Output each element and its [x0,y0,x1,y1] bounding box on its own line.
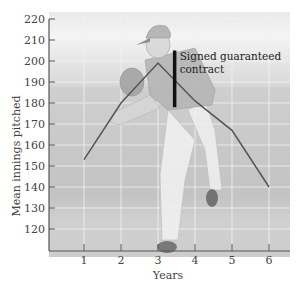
x-tick-label: 2 [118,254,125,267]
y-tick-label: 150 [24,160,45,173]
y-tick-label: 180 [24,97,45,110]
x-axis-label: Years [152,269,184,282]
x-tick-label: 4 [192,254,199,267]
x-tick-label: 3 [155,254,162,267]
y-tick-label: 120 [24,223,45,236]
y-axis-label: Mean innings pitched [10,95,23,216]
y-tick-label: 170 [24,118,45,131]
x-tick-label: 1 [81,254,88,267]
y-tick-label: 220 [24,13,45,26]
line-chart: 120130140150160170180190200210220 123456… [0,0,298,291]
y-tick-label: 210 [24,34,45,47]
annotation-line-1: Signed guaranteed [180,50,282,62]
x-tick-label: 6 [266,254,273,267]
y-tick-label: 160 [24,139,45,152]
y-tick-label: 140 [24,181,45,194]
y-tick-label: 130 [24,202,45,215]
x-tick-label: 5 [229,254,236,267]
annotation-line-2: contract [180,63,225,75]
y-tick-label: 200 [24,55,45,68]
y-tick-label: 190 [24,76,45,89]
